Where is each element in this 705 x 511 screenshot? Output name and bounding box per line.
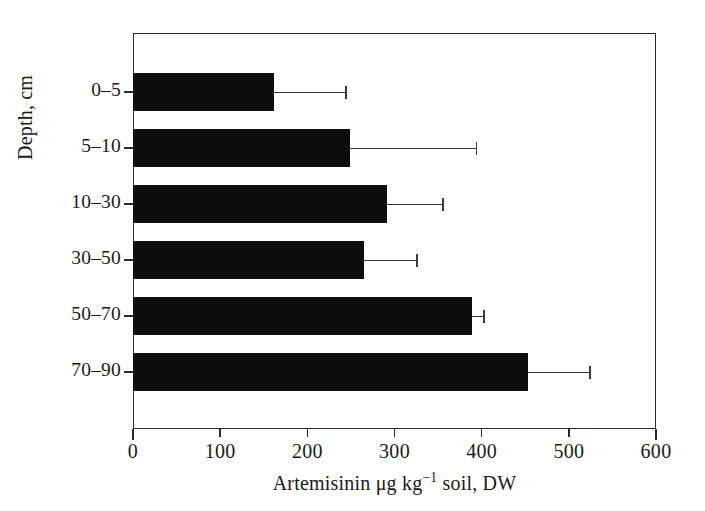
y-axis-tick	[124, 91, 133, 93]
y-axis-tick	[124, 147, 133, 149]
bar	[133, 241, 364, 279]
x-axis-tick-label: 400	[447, 440, 517, 463]
y-axis-tick	[124, 315, 133, 317]
y-axis-tick	[124, 259, 133, 261]
error-bar-cap	[483, 310, 485, 323]
x-axis-tick-label: 300	[360, 440, 430, 463]
x-axis-tick	[655, 429, 657, 440]
x-axis-tick-label: 200	[272, 440, 342, 463]
y-axis-tick-label-wrap: 10–30	[0, 191, 121, 217]
x-axis-tick-label: 0	[98, 440, 168, 463]
bar	[133, 73, 274, 111]
bars-layer	[133, 33, 656, 429]
y-axis-tick-label-wrap: 30–50	[0, 247, 121, 273]
error-bar-cap	[476, 142, 478, 155]
x-axis-tick	[132, 429, 134, 440]
y-axis-tick-label: 10–30	[1, 191, 121, 213]
bar	[133, 129, 350, 167]
bar-row	[133, 129, 656, 167]
error-bar-line	[387, 204, 443, 206]
x-axis-title-prefix: Artemisinin μg kg	[273, 472, 423, 494]
error-bar-cap	[589, 366, 591, 379]
error-bar-cap	[442, 198, 444, 211]
x-axis-tick	[219, 429, 221, 437]
bar-row	[133, 241, 656, 279]
x-axis-tick	[307, 429, 309, 437]
x-axis-tick	[568, 429, 570, 437]
bar	[133, 297, 472, 335]
error-bar-line	[528, 372, 589, 374]
bar	[133, 353, 528, 391]
error-bar-cap	[416, 254, 418, 267]
bar-chart-figure: 0100200300400500600 0–55–1010–3030–5050–…	[0, 0, 705, 511]
x-axis-title-suffix: soil, DW	[437, 472, 516, 494]
y-axis-tick-label: 70–90	[1, 359, 121, 381]
y-axis-tick	[124, 371, 133, 373]
y-axis-tick-label: 30–50	[1, 247, 121, 269]
x-axis-title: Artemisinin μg kg−1 soil, DW	[133, 472, 656, 495]
x-axis-tick	[394, 429, 396, 437]
error-bar-line	[350, 148, 476, 150]
bar	[133, 185, 387, 223]
error-bar-line	[364, 260, 416, 262]
bar-row	[133, 73, 656, 111]
x-axis-tick-label: 600	[621, 440, 691, 463]
error-bar-cap	[345, 86, 347, 99]
x-axis-tick	[481, 429, 483, 437]
error-bar-line	[472, 316, 483, 318]
y-axis-title: Depth, cm	[14, 75, 37, 160]
y-axis-tick-label-wrap: 70–90	[0, 359, 121, 385]
error-bar-line	[274, 92, 345, 94]
bar-row	[133, 353, 656, 391]
y-axis-tick	[124, 203, 133, 205]
bar-row	[133, 185, 656, 223]
y-axis-tick-label: 50–70	[1, 303, 121, 325]
x-axis-tick-label: 500	[534, 440, 604, 463]
x-axis-title-exponent: −1	[422, 470, 437, 485]
y-axis-tick-label-wrap: 50–70	[0, 303, 121, 329]
bar-row	[133, 297, 656, 335]
x-axis-tick-label: 100	[185, 440, 255, 463]
